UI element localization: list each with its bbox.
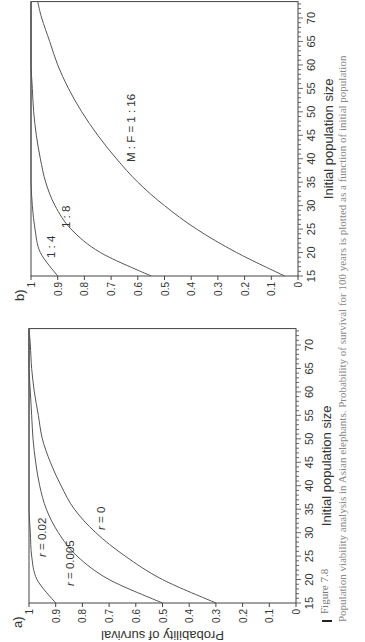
y-tick-label: 0.6 (133, 282, 144, 296)
y-tick-label: 0 (291, 609, 302, 615)
panel-label: b) (12, 289, 27, 301)
x-tick-label: 15 (305, 270, 317, 282)
y-axis-label: Probability of survival (101, 628, 224, 642)
x-tick-label: 25 (303, 550, 315, 562)
x-tick-label: 45 (303, 456, 315, 468)
y-tick-label: 0.1 (266, 282, 277, 296)
figure-rule (322, 620, 332, 622)
series-line (29, 329, 163, 603)
y-tick-label: 0.3 (211, 609, 222, 623)
series-line (29, 329, 216, 603)
x-tick-label: 65 (303, 362, 315, 374)
x-tick-label: 15 (303, 597, 315, 609)
y-tick-label: 0.8 (79, 282, 90, 296)
x-tick-label: 35 (303, 503, 315, 515)
figure-charts: 00.10.20.30.40.50.60.70.80.9115202530354… (0, 0, 365, 642)
x-tick-label: 35 (305, 176, 317, 188)
x-tick-label: 70 (305, 12, 317, 24)
panel-label: a) (10, 616, 25, 628)
y-tick-label: 0.9 (53, 282, 64, 296)
y-tick-label: 1 (26, 282, 37, 288)
y-tick-label: 0.8 (77, 609, 88, 623)
y-tick-label: 0.5 (160, 282, 171, 296)
plot-frame (31, 2, 298, 276)
x-tick-label: 20 (303, 573, 315, 585)
y-tick-label: 0.5 (158, 609, 169, 623)
x-tick-label: 70 (303, 339, 315, 351)
x-tick-label: 65 (305, 35, 317, 47)
x-tick-label: 60 (303, 386, 315, 398)
y-tick-label: 1 (24, 609, 35, 615)
y-tick-label: 0.2 (240, 282, 251, 296)
curve-annotation: r = 0.02 (36, 518, 48, 557)
x-tick-label: 30 (305, 200, 317, 212)
y-tick-label: 0.7 (104, 609, 115, 623)
curve-annotation: M : F = 1 : 16 (125, 94, 137, 162)
x-tick-label: 55 (305, 82, 317, 94)
y-tick-label: 0.4 (184, 609, 195, 623)
figure-caption: Population viability analysis in Asian e… (336, 56, 348, 622)
x-axis-label: Initial population size (321, 78, 336, 199)
y-tick-label: 0 (293, 282, 304, 288)
figure-number: Figure 7.8 (318, 569, 330, 614)
y-tick-label: 0.2 (238, 609, 249, 623)
x-axis-label: Initial population size (319, 405, 334, 526)
curve-annotation: 1 : 8 (60, 206, 72, 228)
x-tick-label: 20 (305, 246, 317, 258)
curve-annotation: r = 0.005 (64, 540, 76, 586)
y-tick-label: 0.1 (264, 609, 275, 623)
y-tick-label: 0.6 (131, 609, 142, 623)
y-tick-label: 0.3 (213, 282, 224, 296)
panel-b-chart: 00.10.20.30.40.50.60.70.80.9115202530354… (12, 2, 336, 301)
y-tick-label: 0.4 (186, 282, 197, 296)
x-tick-label: 45 (305, 129, 317, 141)
curve-annotation: r = 0 (95, 507, 107, 530)
x-tick-label: 55 (303, 409, 315, 421)
y-tick-label: 0.7 (106, 282, 117, 296)
x-tick-label: 40 (303, 480, 315, 492)
curve-annotation: 1 : 4 (45, 235, 57, 258)
figure-page: 00.10.20.30.40.50.60.70.80.9115202530354… (0, 0, 365, 642)
series-line (38, 2, 285, 276)
x-tick-label: 40 (305, 153, 317, 165)
x-tick-label: 60 (305, 59, 317, 71)
x-tick-label: 50 (305, 106, 317, 118)
y-tick-label: 0.9 (51, 609, 62, 623)
panel-a-chart: 00.10.20.30.40.50.60.70.80.9115202530354… (10, 329, 334, 642)
x-tick-label: 30 (303, 527, 315, 539)
x-tick-label: 25 (305, 223, 317, 235)
x-tick-label: 50 (303, 433, 315, 445)
